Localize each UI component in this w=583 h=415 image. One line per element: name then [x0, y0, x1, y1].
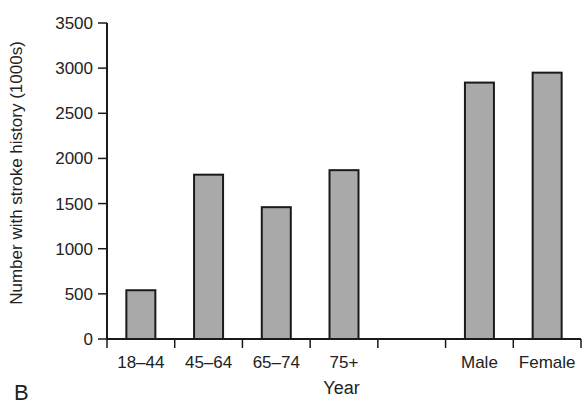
y-tick-label: 500	[65, 285, 93, 304]
y-axis-label-text: Number with stroke history (1000s)	[7, 41, 27, 305]
bar	[533, 73, 562, 339]
bar	[330, 170, 359, 339]
bar	[126, 290, 155, 339]
bar-chart: 050010001500200025003000350018–4445–6465…	[0, 0, 583, 415]
y-tick-label: 3000	[55, 59, 93, 78]
x-tick-label: Female	[519, 353, 576, 372]
x-tick-label: 75+	[330, 353, 359, 372]
y-tick-label: 0	[84, 330, 93, 349]
y-tick-label: 2000	[55, 149, 93, 168]
x-axis-label: Year	[0, 378, 583, 399]
x-tick-label: 45–64	[185, 353, 232, 372]
bar	[262, 207, 291, 339]
y-tick-label: 1500	[55, 195, 93, 214]
x-axis-label-text: Year	[323, 378, 359, 398]
panel-label: B	[14, 380, 29, 406]
chart-plot-area: 050010001500200025003000350018–4445–6465…	[0, 0, 583, 415]
y-axis-label: Number with stroke history (1000s)	[2, 0, 32, 345]
x-tick-label: 65–74	[253, 353, 300, 372]
y-tick-label: 2500	[55, 104, 93, 123]
x-tick-label: Male	[461, 353, 498, 372]
y-tick-label: 3500	[55, 14, 93, 33]
bar	[194, 175, 223, 339]
bar	[465, 83, 494, 339]
x-tick-label: 18–44	[117, 353, 164, 372]
y-tick-label: 1000	[55, 240, 93, 259]
